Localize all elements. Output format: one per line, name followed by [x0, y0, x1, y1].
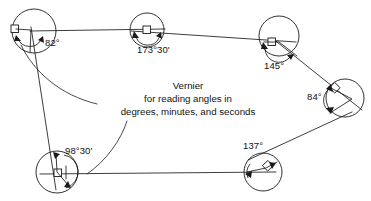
callout-line-3: degrees, minutes, and seconds: [96, 105, 280, 118]
station-b-angle-label: 173°30': [137, 45, 170, 55]
leg-e-to-f: [40, 172, 276, 174]
station-a-arrow-head-left: [14, 35, 21, 41]
station-b-group: [130, 13, 164, 47]
station-e-angle-label: 137°: [243, 141, 263, 151]
station-c-angle-label: 145°: [264, 61, 284, 71]
station-d-angle-label: 84°: [307, 92, 322, 102]
station-d-group: [324, 79, 364, 117]
station-c-arrow-head-left: [261, 42, 268, 49]
leg-f-to-a: [31, 27, 56, 190]
station-c-group: [259, 16, 299, 62]
station-f-angle-label: 98°30': [65, 146, 92, 156]
traverse-figure: 82° 173°30' 145° 84° 137° 98°30' Vernier…: [0, 0, 371, 201]
station-a-angle-label: 82°: [45, 38, 60, 48]
station-a-arrow-head-right: [38, 36, 44, 43]
vernier-callout: Vernier for reading angles in degrees, m…: [96, 79, 280, 119]
station-b-arrow-head-left: [132, 31, 139, 38]
station-f-group: [36, 151, 78, 193]
leader-curve-upper: [21, 45, 97, 104]
station-b-instrument-icon: [143, 26, 151, 34]
callout-line-2: for reading angles in: [96, 92, 280, 105]
leader-curve-lower: [87, 121, 127, 174]
callout-line-1: Vernier: [96, 79, 280, 92]
